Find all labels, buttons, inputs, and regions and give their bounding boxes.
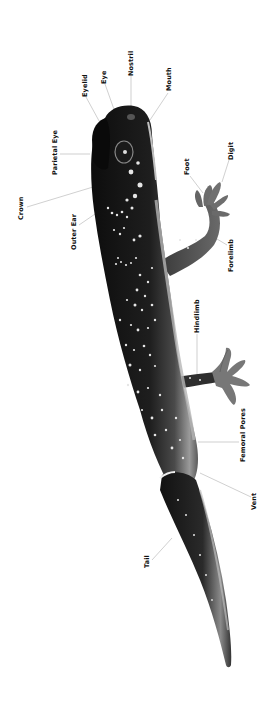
leader-mouth [150,93,168,120]
label-outer-ear: Outer Ear [70,214,78,250]
leader-foot [190,176,203,193]
label-parietal-eye: Parietal Eye [51,130,59,175]
lizard-illustration [0,0,279,701]
label-forelimb: Forelimb [227,239,235,272]
leader-tail [152,538,172,560]
label-foot: Foot [183,158,191,175]
forelimb-shape [160,182,230,276]
label-mouth: Mouth [165,67,173,91]
leader-digit [222,160,229,182]
label-vent: Vent [250,493,258,510]
label-femoral-pores: Femoral Pores [239,408,247,462]
label-crown: Crown [17,196,25,220]
tail-shape [160,472,231,667]
label-hindlimb: Hindlimb [193,299,201,333]
label-nostril: Nostril [127,51,135,76]
label-eye: Eye [100,71,108,84]
label-tail: Tail [143,555,151,568]
label-digit: Digit [227,142,235,160]
lizard-anatomy-diagram: Eyelid Eye Nostril Mouth Parietal Eye Cr… [0,0,279,701]
body-shape [91,106,198,491]
leader-crown [27,187,93,207]
leader-vent [200,473,251,497]
label-eyelid: Eyelid [81,74,89,97]
